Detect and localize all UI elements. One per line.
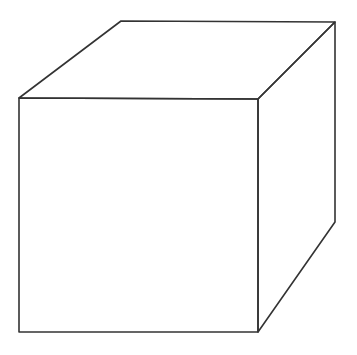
cube-diagram (0, 0, 357, 355)
